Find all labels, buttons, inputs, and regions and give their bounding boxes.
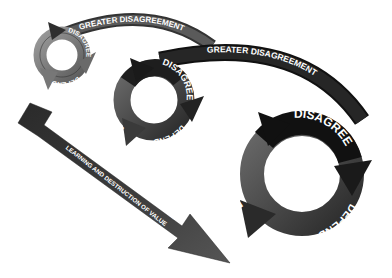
cycle-medium: DESTROY DISAGREE DEFEND: [100, 57, 204, 146]
escalation-cycle-diagram: GREATER DISAGREEMENT GREATER DISAGREEMEN…: [0, 0, 392, 278]
cycle-large: DESTROY DISAGREE DEFEND: [221, 107, 372, 242]
trend-label-line2: LEARNING AND DESTRUCTION OF VALUE: [65, 144, 169, 227]
